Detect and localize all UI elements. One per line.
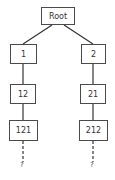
node-212: 212 <box>79 120 108 141</box>
node-2: 2 <box>81 44 106 64</box>
node-121: 121 <box>9 120 38 141</box>
node-21: 21 <box>80 84 106 104</box>
edge-root-2 <box>64 25 93 44</box>
edge-root-1 <box>23 25 52 44</box>
node-12: 12 <box>10 84 36 104</box>
unknown-left: ? <box>20 161 24 169</box>
node-root: Root <box>41 7 75 25</box>
node-1: 1 <box>10 44 37 64</box>
unknown-right: ? <box>90 161 94 169</box>
